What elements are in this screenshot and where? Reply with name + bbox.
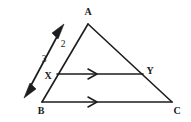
direction-arrow-head-upper-icon bbox=[52, 24, 64, 39]
vertex-label-b: B bbox=[38, 105, 45, 116]
measure-label-3: 3 bbox=[42, 54, 47, 64]
direction-arrow-head-lower-icon bbox=[24, 83, 36, 98]
figure-canvas: A B C X Y 2 3 bbox=[0, 0, 191, 122]
segment-ac bbox=[88, 24, 172, 102]
geometry-diagram: A B C X Y 2 3 bbox=[0, 0, 191, 122]
segment-ab bbox=[42, 24, 88, 102]
vertex-label-y: Y bbox=[146, 65, 154, 76]
measure-label-2: 2 bbox=[61, 39, 66, 49]
vertex-label-x: X bbox=[44, 70, 52, 81]
vertex-label-c: C bbox=[173, 105, 180, 116]
vertex-label-a: A bbox=[84, 6, 92, 17]
